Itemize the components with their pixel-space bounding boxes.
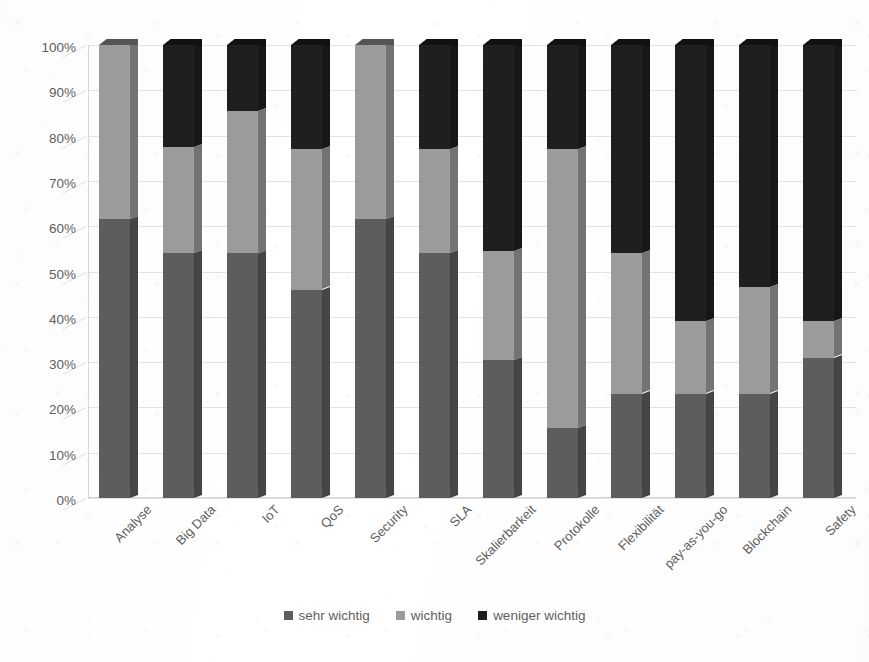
bar-segment <box>163 147 194 253</box>
legend-label: sehr wichtig <box>299 608 370 623</box>
bar-segment-side-face <box>386 216 394 498</box>
bar-segment <box>163 45 194 147</box>
bar-segment <box>99 45 130 219</box>
bar-skalierbarkeit[interactable] <box>483 45 514 498</box>
bar-segment-side-face <box>194 144 202 253</box>
bar-segment-side-face <box>450 146 458 253</box>
bar-top-cap-depth <box>578 39 586 45</box>
bar-qos[interactable] <box>291 45 322 498</box>
bar-top-cap-depth <box>450 39 458 45</box>
legend-item[interactable]: wichtig <box>396 608 452 623</box>
bar-segment <box>227 111 258 254</box>
bar-segment-side-face <box>386 42 394 219</box>
bar-segment-side-face <box>770 284 778 393</box>
bar-segment-side-face <box>514 248 522 360</box>
y-axis-tick-label: 60% <box>18 222 76 236</box>
bar-top-cap-depth <box>514 39 522 45</box>
chart-legend: sehr wichtigwichtigweniger wichtig <box>0 608 869 623</box>
bar-series-group <box>88 45 856 498</box>
bar-segment <box>483 251 514 360</box>
legend-label: weniger wichtig <box>493 608 585 623</box>
bar-segment-side-face <box>578 42 586 149</box>
bar-segment-side-face <box>450 42 458 149</box>
y-axis-tick-label: 80% <box>18 132 76 146</box>
bar-segment-side-face <box>194 42 202 147</box>
bar-segment-side-face <box>514 357 522 498</box>
bar-segment <box>611 253 642 393</box>
bar-segment-side-face <box>834 355 842 498</box>
bar-segment-side-face <box>514 42 522 251</box>
bar-iot[interactable] <box>227 45 258 498</box>
bar-segment <box>483 360 514 498</box>
bar-segment <box>547 149 578 428</box>
legend-item[interactable]: weniger wichtig <box>478 608 585 623</box>
plot-area: 0%10%20%30%40%50%60%70%80%90%100% <box>88 45 856 498</box>
bar-segment-side-face <box>706 391 714 498</box>
bar-segment-side-face <box>130 42 138 219</box>
legend-swatch-icon <box>478 611 487 620</box>
bar-segment <box>803 45 834 321</box>
legend-label: wichtig <box>411 608 452 623</box>
bar-segment <box>291 149 322 289</box>
legend-item[interactable]: sehr wichtig <box>284 608 370 623</box>
bar-segment-side-face <box>258 42 266 111</box>
legend-swatch-icon <box>284 611 293 620</box>
bar-segment-side-face <box>706 318 714 393</box>
bar-segment-side-face <box>322 146 330 289</box>
stacked-bar-chart: 0%10%20%30%40%50%60%70%80%90%100% Analys… <box>0 0 869 662</box>
bar-segment-side-face <box>258 250 266 498</box>
bar-blockchain[interactable] <box>739 45 770 498</box>
bar-segment-side-face <box>130 216 138 498</box>
bar-segment <box>291 290 322 498</box>
bar-segment-side-face <box>706 42 714 321</box>
y-axis-tick-label: 30% <box>18 358 76 372</box>
x-axis-labels: AnalyseBig DataIoTQoSSecuritySLASkalierb… <box>88 502 856 597</box>
y-axis-tick-label: 10% <box>18 449 76 463</box>
bar-segment <box>163 253 194 498</box>
bar-segment-side-face <box>322 42 330 149</box>
bar-segment <box>739 287 770 393</box>
bar-protokolle[interactable] <box>547 45 578 498</box>
bar-segment <box>355 45 386 219</box>
bar-segment <box>227 45 258 111</box>
y-axis-tick-label: 90% <box>18 87 76 101</box>
bar-segment-side-face <box>770 42 778 287</box>
bar-segment <box>611 45 642 253</box>
bar-top-cap-depth <box>642 39 650 45</box>
bar-segment-side-face <box>642 42 650 253</box>
bar-safety[interactable] <box>803 45 834 498</box>
bar-flexibilit-t[interactable] <box>611 45 642 498</box>
bar-security[interactable] <box>355 45 386 498</box>
bar-sla[interactable] <box>419 45 450 498</box>
bar-top-cap-depth <box>322 39 330 45</box>
bar-segment-side-face <box>450 250 458 498</box>
bar-segment-side-face <box>834 318 842 357</box>
y-axis-tick-label: 100% <box>18 41 76 55</box>
bar-segment <box>547 45 578 149</box>
bar-segment <box>675 321 706 393</box>
bar-analyse[interactable] <box>99 45 130 498</box>
bar-segment-side-face <box>642 391 650 498</box>
bar-top-cap-depth <box>130 39 138 45</box>
bar-big-data[interactable] <box>163 45 194 498</box>
bar-segment-side-face <box>834 42 842 321</box>
bar-top-cap-depth <box>770 39 778 45</box>
bar-pay-as-you-go[interactable] <box>675 45 706 498</box>
bar-segment <box>739 45 770 287</box>
bar-top-cap-depth <box>834 39 842 45</box>
y-axis-tick-label: 70% <box>18 177 76 191</box>
bar-segment <box>99 219 130 498</box>
legend-swatch-icon <box>396 611 405 620</box>
bar-segment <box>291 45 322 149</box>
bar-segment <box>227 253 258 498</box>
y-axis-tick-label: 50% <box>18 268 76 282</box>
bar-top-cap-depth <box>258 39 266 45</box>
bar-segment <box>483 45 514 251</box>
y-axis-tick-label: 20% <box>18 404 76 418</box>
bar-segment <box>419 149 450 253</box>
bar-top-cap-depth <box>706 39 714 45</box>
y-axis-tick-label: 40% <box>18 313 76 327</box>
bar-segment-side-face <box>578 146 586 428</box>
bar-segment-side-face <box>642 250 650 393</box>
bar-top-cap-depth <box>386 39 394 45</box>
